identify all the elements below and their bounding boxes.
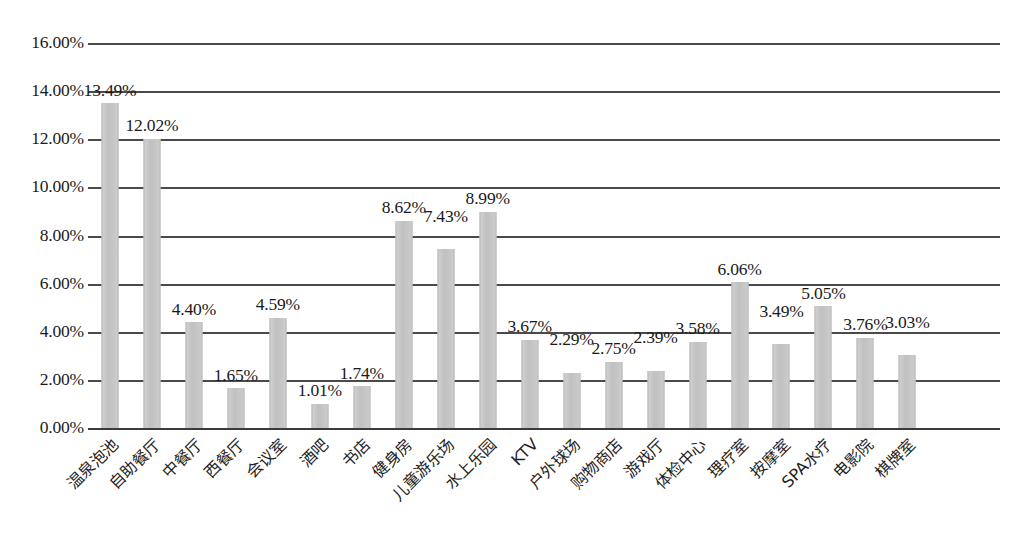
bar-slot: 2.75% [593,43,635,428]
x-label-slot: 西餐厅 [215,430,257,548]
x-label-slot: 温泉泡池 [89,430,131,548]
bar-slot: 5.05% [802,43,844,428]
bar-value-label: 8.99% [466,190,510,208]
bar[interactable] [269,318,286,428]
bar-slot: 12.02% [131,43,173,428]
bar-slot: 3.67% [509,43,551,428]
bar-value-label: 3.76% [843,316,887,334]
y-axis: 16.00%14.00%12.00%10.00%8.00%6.00%4.00%2… [0,43,84,428]
bar-value-label: 7.43% [424,208,468,226]
x-axis-category-label: 酒吧 [297,436,332,471]
bar-slot: 8.62% [383,43,425,428]
x-axis-category-label: 书店 [339,436,374,471]
x-label-slot: 户外球场 [551,430,593,548]
bar-slot: 1.65% [215,43,257,428]
bar-slot: 13.49% [89,43,131,428]
bar-slot: 3.76% [844,43,886,428]
x-label-slot: 水上乐园 [467,430,509,548]
bar-value-label: 2.75% [592,340,636,358]
bar-slot: 6.06% [719,43,761,428]
y-axis-tick-label: 6.00% [0,275,84,293]
x-label-slot: 体检中心 [677,430,719,548]
bar-value-label: 3.03% [885,314,929,332]
y-axis-tick-label: 14.00% [0,82,84,100]
y-axis-tick-label: 8.00% [0,227,84,245]
bar-slot: 3.58% [677,43,719,428]
x-label-slot: 购物商店 [593,430,635,548]
x-label-slot: 按摩室 [761,430,803,548]
x-label-slot: 游戏厅 [635,430,677,548]
bar-value-label: 3.67% [508,318,552,336]
bar-value-label: 1.65% [214,367,258,385]
bar[interactable] [563,373,580,428]
bar[interactable] [185,322,202,428]
bar-value-label: 6.06% [717,261,761,279]
x-label-slot: 会议室 [257,430,299,548]
bar-slot: 7.43% [425,43,467,428]
x-label-slot: 理疗室 [719,430,761,548]
bar-value-label: 13.49% [84,82,137,100]
bar-value-label: 3.58% [675,320,719,338]
x-label-slot: 棋牌室 [886,430,928,548]
bar[interactable] [227,388,244,428]
x-label-slot: 书店 [341,430,383,548]
x-label-slot: 酒吧 [299,430,341,548]
y-axis-tick-label: 10.00% [0,179,84,197]
bars-layer: 13.49%12.02%4.40%1.65%4.59%1.01%1.74%8.6… [88,43,1000,428]
bar-chart: 16.00%14.00%12.00%10.00%8.00%6.00%4.00%2… [0,0,1031,548]
x-label-slot: 电影院 [844,430,886,548]
y-axis-tick-label: 0.00% [0,419,84,437]
bar-value-label: 2.39% [633,329,677,347]
bar-value-label: 2.29% [550,331,594,349]
bar-slot: 4.40% [173,43,215,428]
x-label-slot: KTV [509,430,551,548]
bar-value-label: 12.02% [126,117,179,135]
bar[interactable] [101,103,118,428]
bar[interactable] [899,355,916,428]
y-axis-tick-label: 16.00% [0,34,84,52]
bar-slot: 8.99% [467,43,509,428]
y-axis-tick-label: 2.00% [0,371,84,389]
bar-value-label: 4.59% [256,296,300,314]
bar[interactable] [479,212,496,428]
x-label-slot: SPA水疗 [802,430,844,548]
bar[interactable] [605,362,622,428]
bar-slot: 4.59% [257,43,299,428]
bar-value-label: 5.05% [801,285,845,303]
y-axis-tick-label: 4.00% [0,323,84,341]
x-axis-category-label: KTV [508,436,541,469]
x-label-slot: 儿童游乐场 [425,430,467,548]
x-label-slot: 中餐厅 [173,430,215,548]
bar-slot: 3.03% [886,43,928,428]
bar[interactable] [731,282,748,428]
bar[interactable] [815,306,832,428]
bar[interactable] [311,404,328,428]
bar-value-label: 3.49% [759,303,803,321]
bar[interactable] [857,338,874,428]
bar-slot: 2.29% [551,43,593,428]
bar-value-label: 4.40% [172,301,216,319]
x-axis-labels: 温泉泡池自助餐厅中餐厅西餐厅会议室酒吧书店健身房儿童游乐场水上乐园KTV户外球场… [88,430,1000,548]
bar[interactable] [773,344,790,428]
bar-slot: 3.49% [761,43,803,428]
bar[interactable] [521,340,538,428]
bar[interactable] [437,249,454,428]
bar-value-label: 1.01% [298,382,342,400]
bar[interactable] [647,371,664,429]
bar-value-label: 1.74% [340,365,384,383]
x-label-slot: 自助餐厅 [131,430,173,548]
bar[interactable] [353,386,370,428]
bar-slot: 2.39% [635,43,677,428]
bar[interactable] [395,221,412,428]
bar-value-label: 8.62% [382,199,426,217]
bar-slot: 1.01% [299,43,341,428]
bar[interactable] [689,342,706,428]
bar[interactable] [143,139,160,428]
bar-slot: 1.74% [341,43,383,428]
y-axis-tick-label: 12.00% [0,131,84,149]
